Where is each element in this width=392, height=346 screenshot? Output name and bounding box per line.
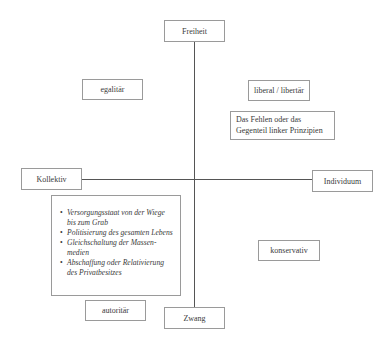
horizontal-axis-line [81, 179, 313, 180]
list-item: Gleichschaltung der Massen-medien [60, 238, 174, 258]
traits-list: Versorgungsstaat von der Wiege bis zum G… [60, 208, 174, 278]
note-line-1: Das Fehlen oder das [236, 115, 301, 126]
axis-label-freiheit: Freiheit [164, 20, 225, 42]
axis-label-kollektiv: Kollektiv [21, 168, 82, 190]
list-item: Politisierung des gesamten Lebens [60, 228, 174, 238]
liberal-text: liberal / libertär [254, 86, 304, 95]
freiheit-text: Freiheit [182, 27, 207, 36]
quadrant-note-liberal: Das Fehlen oder das Gegenteil linker Pri… [230, 111, 335, 140]
note-line-2: Gegenteil linker Prinzipien [236, 126, 323, 137]
axis-label-zwang: Zwang [164, 307, 225, 329]
kollektiv-text: Kollektiv [36, 175, 66, 184]
list-item: Versorgungsstaat von der Wiege bis zum G… [60, 208, 174, 228]
list-item: Abschaffung oder Relativierung des Priva… [60, 258, 174, 278]
zwang-text: Zwang [183, 314, 205, 323]
vertical-axis-line [194, 42, 195, 308]
konservativ-text: konservativ [270, 246, 307, 255]
autoritaer-text: autoritär [102, 306, 129, 315]
quadrant-label-autoritaer: autoritär [85, 300, 146, 321]
egalitaer-text: egalitär [101, 85, 125, 94]
quadrant-label-konservativ: konservativ [258, 240, 320, 261]
individuum-text: Individuum [324, 177, 361, 186]
quadrant-label-egalitaer: egalitär [82, 79, 143, 100]
axis-label-individuum: Individuum [312, 170, 373, 192]
authoritarian-traits-list: Versorgungsstaat von der Wiege bis zum G… [51, 195, 181, 296]
quadrant-label-liberal: liberal / libertär [248, 80, 310, 101]
